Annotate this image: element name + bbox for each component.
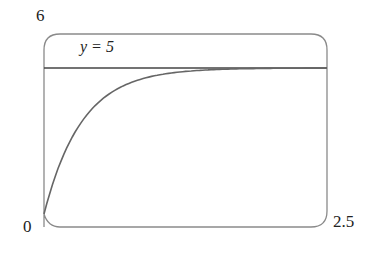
chart-canvas — [0, 0, 381, 259]
asymptote-label: y = 5 — [80, 38, 114, 56]
y-max-label: 6 — [36, 6, 45, 26]
asymptote-label-text: y = 5 — [80, 38, 114, 55]
data-curve — [44, 68, 327, 214]
x-max-label: 2.5 — [333, 212, 354, 232]
origin-label: 0 — [23, 217, 32, 237]
plot-frame — [44, 34, 327, 227]
